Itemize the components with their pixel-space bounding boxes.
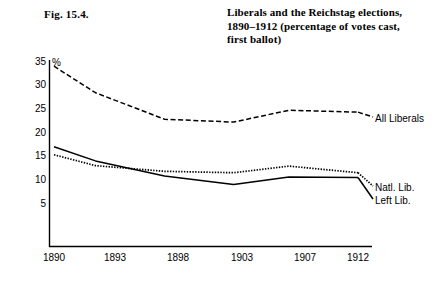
x-tick-label-1893: 1893 bbox=[95, 252, 135, 263]
legend-label-natl-lib: Natl. Lib. bbox=[375, 182, 414, 193]
chart-plot-area: % 35 30 25 20 15 10 5 1890 1893 1898 190… bbox=[0, 0, 447, 285]
series-line-natl-lib bbox=[54, 155, 358, 173]
legend-label-left-lib: Left Lib. bbox=[375, 195, 411, 206]
x-tick-label-1898: 1898 bbox=[158, 252, 198, 263]
y-tick-label-35: 35 bbox=[24, 56, 46, 67]
y-tick-label-10: 10 bbox=[24, 174, 46, 185]
y-tick-label-15: 15 bbox=[24, 150, 46, 161]
y-tick-label-25: 25 bbox=[24, 103, 46, 114]
series-line-all-liberals bbox=[54, 66, 358, 122]
chart-canvas bbox=[0, 0, 447, 285]
figure-root: Fig. 15.4. Liberals and the Reichstag el… bbox=[0, 0, 447, 285]
x-tick-label-1907: 1907 bbox=[285, 252, 325, 263]
x-tick-label-1912: 1912 bbox=[338, 252, 378, 263]
y-tick-label-5: 5 bbox=[24, 198, 46, 209]
series-line-left-lib bbox=[54, 147, 358, 185]
y-tick-label-30: 30 bbox=[24, 79, 46, 90]
y-tick-label-20: 20 bbox=[24, 127, 46, 138]
legend-leader-1 bbox=[358, 173, 373, 186]
x-tick-label-1890: 1890 bbox=[34, 252, 74, 263]
legend-label-all-liberals: All Liberals bbox=[375, 113, 424, 124]
legend-leader-2 bbox=[358, 177, 373, 199]
legend-leader-0 bbox=[358, 112, 373, 117]
chart-series-group bbox=[54, 66, 373, 199]
chart-axes bbox=[49, 60, 372, 247]
x-tick-label-1903: 1903 bbox=[222, 252, 262, 263]
